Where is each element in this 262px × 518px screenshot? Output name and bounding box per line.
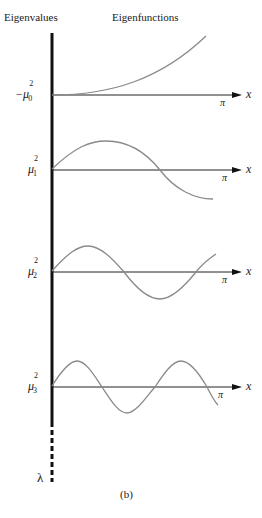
x-label-0: x: [246, 87, 251, 102]
x-label-2: x: [246, 264, 251, 279]
eigen-diagram: [0, 0, 262, 518]
figure-caption: (b): [120, 488, 133, 500]
pi-label-1: π: [222, 172, 227, 183]
x-label-1: x: [246, 162, 251, 177]
eigenvalue-label-2: μ22: [28, 263, 37, 280]
eigenvalue-label-3: μ23: [28, 378, 37, 395]
eigenvalue-label-0: −μ20: [15, 86, 32, 103]
eigenvalue-label-1: μ21: [28, 161, 37, 178]
pi-label-3: π: [218, 389, 223, 400]
lambda-label: λ: [37, 470, 43, 486]
x-label-3: x: [246, 379, 251, 394]
pi-label-2: π: [222, 274, 227, 285]
pi-label-0: π: [220, 97, 225, 108]
